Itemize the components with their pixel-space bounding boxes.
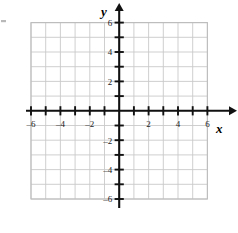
y-axis-tick-label: –2	[102, 136, 112, 146]
x-axis-name-label: x	[215, 121, 223, 136]
y-axis-name-label: y	[99, 4, 107, 19]
coordinate-grid-figure: –6–4–2246 –6–4–2246 x y	[0, 0, 238, 233]
y-axis-arrow-icon	[115, 3, 124, 11]
y-axis-tick-label: –4	[102, 165, 113, 175]
x-axis-tick-label: –4	[55, 119, 66, 129]
x-axis-tick-label: 6	[205, 119, 210, 129]
x-axis-tick-label: –2	[84, 119, 94, 129]
x-axis-tick-label: 2	[146, 119, 151, 129]
y-axis-tick-label: –6	[102, 194, 113, 204]
x-axis-tick-labels: –6–4–2246	[26, 119, 211, 129]
x-axis-tick-label: 4	[176, 119, 181, 129]
x-axis-arrow-icon	[229, 106, 237, 115]
y-axis-tick-label: 2	[108, 77, 113, 87]
y-axis-tick-label: 4	[108, 47, 113, 57]
y-axis-tick-label: 6	[108, 18, 113, 28]
scan-artifact	[1, 20, 6, 22]
x-axis-tick-label: –6	[26, 119, 37, 129]
coordinate-plane-svg: –6–4–2246 –6–4–2246 x y	[0, 0, 238, 233]
